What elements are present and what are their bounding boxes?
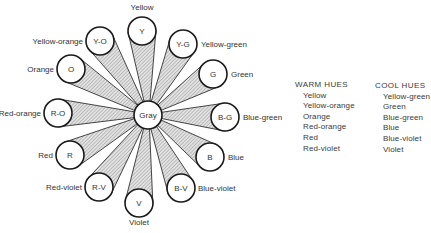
color-wheel-diagram: YYellowY-GYellow-greenGGreenB-GBlue-gree… xyxy=(0,0,300,233)
hue-abbr: B xyxy=(207,153,212,162)
hue-label: Red-violet xyxy=(46,183,83,192)
hue-label: Red-orange xyxy=(0,109,42,118)
hue-node-red: RRed xyxy=(38,141,84,169)
hue-node-blue-violet: B-VBlue-violet xyxy=(167,174,236,202)
hue-abbr: B-V xyxy=(174,184,188,193)
hue-abbr: R-V xyxy=(92,183,106,192)
warm-hues-title: WARM HUES xyxy=(295,80,355,91)
cool-hues-title: COOL HUES xyxy=(375,81,430,92)
hue-node-violet: VViolet xyxy=(125,189,153,227)
hue-label: Yellow-orange xyxy=(33,37,84,46)
cool-hue-item: Green xyxy=(375,102,430,113)
warm-hue-item: Yellow-orange xyxy=(295,101,355,112)
hue-label: Red xyxy=(38,151,53,160)
hue-node-red-orange: R-ORed-orange xyxy=(0,99,72,127)
warm-hue-item: Red-orange xyxy=(295,122,355,133)
hue-abbr: R xyxy=(67,151,73,160)
hue-node-orange: OOrange xyxy=(27,55,85,83)
hue-node-green: GGreen xyxy=(199,60,253,88)
hue-abbr: Y-O xyxy=(93,37,107,46)
warm-hue-item: Yellow xyxy=(295,91,355,102)
warm-hues-legend: WARM HUES Yellow Yellow-orange Orange Re… xyxy=(295,80,355,154)
hue-abbr: O xyxy=(68,65,74,74)
hue-abbr: R-O xyxy=(51,109,66,118)
hue-label: Violet xyxy=(129,218,150,227)
hue-abbr: G xyxy=(210,70,216,79)
hue-label: Blue xyxy=(228,153,245,162)
hue-abbr: V xyxy=(136,199,142,208)
cool-hues-legend: COOL HUES Yellow-green Green Blue-green … xyxy=(375,81,430,155)
cool-hue-item: Blue-green xyxy=(375,113,430,124)
hue-node-yellow-orange: Y-OYellow-orange xyxy=(33,27,114,55)
hue-label: Orange xyxy=(27,65,54,74)
hue-node-blue: BBlue xyxy=(196,143,245,171)
hue-abbr: Y-G xyxy=(176,40,190,49)
hue-label: Blue-violet xyxy=(198,184,236,193)
hue-node-yellow: YYellow xyxy=(128,3,156,45)
gray-center-circle: Gray xyxy=(134,101,162,129)
hue-label: Yellow xyxy=(131,3,154,12)
warm-hue-item: Red-violet xyxy=(295,144,355,155)
cool-hue-item: Blue-violet xyxy=(375,134,430,145)
hue-label: Green xyxy=(231,70,253,79)
warm-hue-item: Orange xyxy=(295,112,355,123)
hue-node-yellow-green: Y-GYellow-green xyxy=(169,30,247,58)
hue-abbr: B-G xyxy=(218,113,232,122)
hue-node-red-violet: R-VRed-violet xyxy=(46,173,113,201)
gray-label: Gray xyxy=(139,111,156,120)
hue-label: Yellow-green xyxy=(201,40,247,49)
hue-node-blue-green: B-GBlue-green xyxy=(211,103,282,131)
hue-abbr: Y xyxy=(139,27,145,36)
cool-hue-item: Blue xyxy=(375,123,430,134)
cool-hue-item: Violet xyxy=(375,145,430,156)
hue-label: Blue-green xyxy=(243,113,282,122)
warm-hue-item: Red xyxy=(295,133,355,144)
cool-hue-item: Yellow-green xyxy=(375,92,430,103)
